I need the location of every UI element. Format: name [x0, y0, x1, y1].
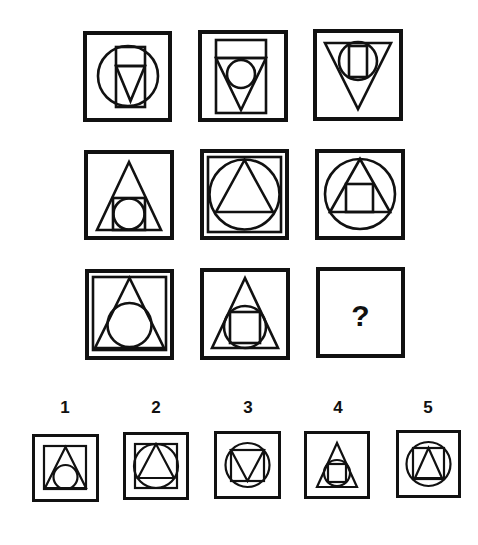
question-mark: ?: [320, 299, 401, 333]
figure-drawing: [88, 154, 170, 236]
square-shape: [230, 312, 260, 343]
option-label-1: 1: [50, 398, 80, 418]
figure-drawing: [317, 33, 399, 117]
circle-shape: [108, 303, 152, 347]
grid-cell-r2c3: [315, 149, 405, 240]
grid-cell-r1c2: [198, 30, 288, 122]
triangle-shape: [216, 58, 266, 110]
circle-shape: [227, 60, 255, 88]
circle-shape: [54, 465, 78, 489]
figure-drawing: [126, 435, 186, 497]
grid-cell-r2c1: [84, 150, 174, 240]
option-label-2: 2: [141, 398, 171, 418]
puzzle-stage: ? 12345: [0, 0, 478, 545]
circle-shape: [114, 199, 145, 230]
square-shape: [349, 46, 367, 77]
answer-option-1[interactable]: [32, 434, 99, 502]
circle-shape: [325, 159, 395, 229]
option-label-3: 3: [233, 398, 263, 418]
figure-drawing: [307, 434, 367, 496]
triangle-shape: [95, 278, 164, 348]
figure-drawing: [202, 34, 284, 118]
triangle-shape: [116, 66, 145, 101]
grid-cell-r2c2: [200, 149, 289, 240]
answer-option-4[interactable]: [304, 431, 370, 499]
answer-option-3[interactable]: [214, 431, 281, 499]
square-shape: [328, 464, 346, 482]
grid-cell-r1c1: [83, 31, 172, 122]
answer-option-2[interactable]: [123, 432, 189, 500]
triangle-shape: [45, 447, 86, 488]
figure-drawing: [204, 272, 286, 356]
circle-shape: [134, 444, 178, 488]
grid-cell-r1c3: [313, 29, 403, 121]
answer-option-5[interactable]: [396, 430, 461, 498]
figure-drawing: [217, 434, 278, 496]
missing-cell[interactable]: ?: [316, 267, 405, 358]
figure-drawing: [35, 437, 96, 499]
triangle-shape: [97, 162, 161, 230]
triangle-shape: [415, 448, 442, 478]
figure-drawing: [204, 153, 285, 236]
circle-shape: [339, 42, 377, 80]
square-shape: [208, 157, 281, 232]
circle-shape: [210, 160, 280, 230]
triangle-shape: [216, 160, 273, 212]
triangle-shape: [231, 450, 264, 481]
figure-drawing: [319, 153, 401, 236]
square-shape: [93, 277, 166, 350]
option-label-4: 4: [323, 398, 353, 418]
figure-drawing: [87, 35, 168, 118]
grid-cell-r3c1: [85, 269, 174, 360]
option-label-5: 5: [413, 398, 443, 418]
figure-drawing: [89, 273, 170, 356]
figure-drawing: [399, 433, 458, 495]
grid-cell-r3c2: [200, 268, 290, 360]
square-shape: [231, 450, 264, 481]
square-shape: [346, 184, 373, 212]
square-shape: [44, 446, 86, 489]
